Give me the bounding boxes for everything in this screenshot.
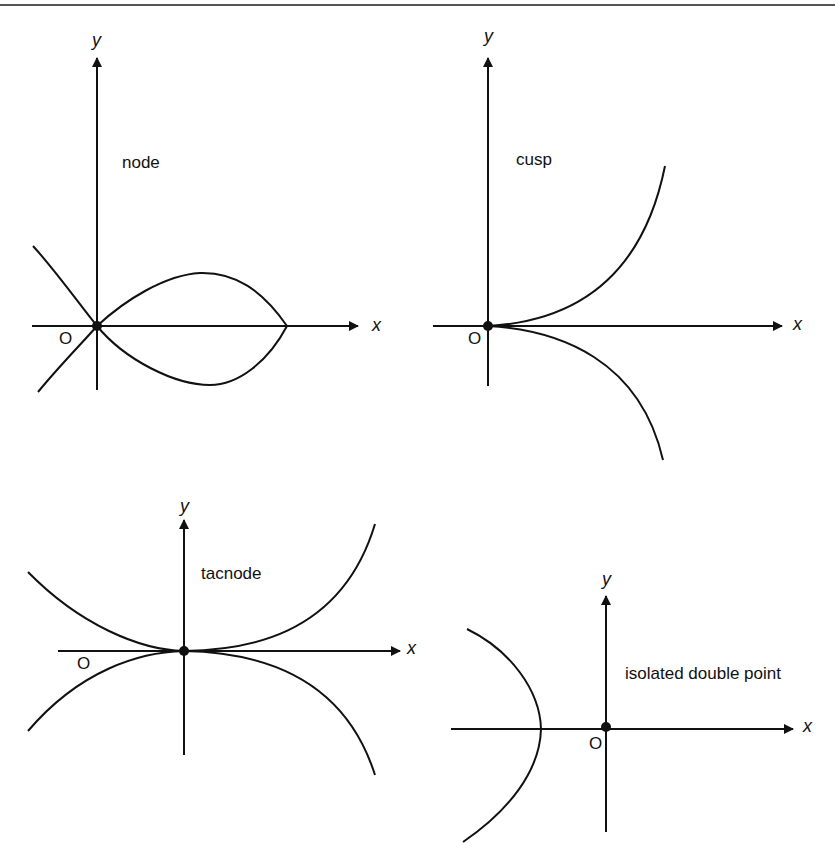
panel-node [32,58,358,392]
isolated-y-label: y [602,569,611,590]
node-origin-label: O [59,329,72,349]
cusp-lower-branch [488,326,663,460]
tacnode-y-label: y [180,496,189,517]
node-y-label: y [92,30,101,51]
cusp-y-label: y [484,26,493,47]
isolated-origin-label: O [589,734,602,754]
tacnode-label: tacnode [201,564,262,584]
node-label: node [122,153,160,173]
tacnode-origin-label: O [77,654,90,674]
cusp-label: cusp [516,150,552,170]
cusp-upper-branch [488,166,665,326]
isolated-x-label: x [803,716,812,737]
node-loop-curve [33,246,287,392]
tacnode-upper-curve [28,524,375,651]
tacnode-x-label: x [407,638,416,659]
tacnode-point [179,646,189,656]
node-point [92,321,102,331]
panel-cusp [433,58,782,460]
cusp-origin-label: O [468,329,481,349]
singular-points-figure [0,0,835,863]
isolated-point [601,722,611,732]
panel-isolated [451,596,793,842]
isolated-other-branch [463,629,541,842]
cusp-point [483,321,493,331]
node-x-label: x [372,315,381,336]
cusp-x-label: x [793,314,802,335]
panel-tacnode [28,520,400,775]
isolated-label: isolated double point [625,664,781,684]
